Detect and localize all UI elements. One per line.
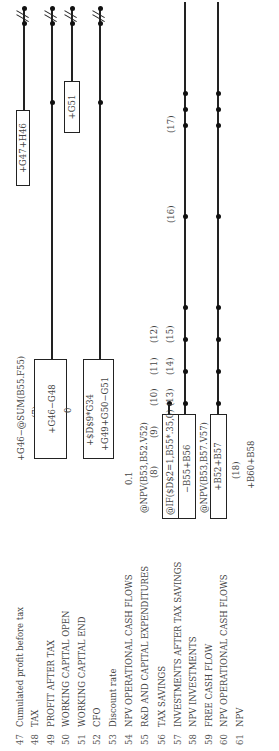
connector-line-row57 <box>184 2 186 414</box>
formula-box-cum-profit-next: +G47+H46 <box>16 110 30 186</box>
formula-npv-investments: @NPV(B53,B57.V57) <box>199 422 209 513</box>
ref-11: (11) <box>149 358 159 375</box>
row-label: PROFIT AFTER TAX <box>46 640 56 727</box>
ref-10: (10) <box>149 389 159 406</box>
row-number: 56 <box>157 734 167 745</box>
row-number: 48 <box>30 734 40 745</box>
connector-line-row49 <box>51 9 53 359</box>
ref-14: (14) <box>165 358 175 375</box>
row-label: NPV OPERATIONAL CASH FLOWS <box>124 574 134 727</box>
row-label: FREE CASH FLOW <box>204 644 214 727</box>
row-label: Cumulated profit before tax <box>15 607 25 727</box>
row-label: NPV <box>235 708 245 727</box>
row-label: TAX SAVINGS <box>157 666 167 727</box>
row-number: 51 <box>77 734 87 745</box>
formula-cum-profit-first: +G46−@SUM(B55.F55) <box>16 356 26 461</box>
formula-profit-after-tax: +G46−G48 <box>47 359 57 459</box>
row-number: 58 <box>188 734 198 745</box>
formula-inv-after-tax: −B55+B56 <box>182 445 192 493</box>
formula-discount-rate: 0.1 <box>124 471 134 485</box>
row-number: 53 <box>108 734 118 745</box>
row-label: NPV OPERATIONAL CASH FLOWS <box>219 574 229 727</box>
ref-16: (16) <box>166 206 176 223</box>
formula-tax-savings: @IF($D$2=1,B55*.35,0) <box>165 409 175 515</box>
row-number: 52 <box>92 734 102 745</box>
row-label: INVESTMENTS AFTER TAX SAVINGS <box>173 562 183 727</box>
row-number: 50 <box>61 734 71 745</box>
connector-line-row52 <box>99 9 101 359</box>
row-label: R&D AND CAPITAL EXPENDITURES <box>140 566 150 727</box>
formula-wc-open-first: 0 <box>63 408 73 413</box>
formula-cfo: +G49+G50−G51 <box>100 377 110 451</box>
row-number: 57 <box>173 734 183 745</box>
rotated-spreadsheet-diagram: 47Cumulated profit before tax48TAX49PROF… <box>0 0 279 751</box>
connector-line-row59 <box>217 2 219 414</box>
box-divider <box>178 414 179 519</box>
ref-9: (9) <box>149 426 159 438</box>
ref-8: (8) <box>149 466 159 478</box>
row-number: 54 <box>124 734 134 745</box>
formula-free-cash-flow: +B52+B57 <box>213 415 223 518</box>
row-number: 55 <box>140 734 150 745</box>
row-number: 61 <box>235 734 245 745</box>
ref-13: (13) <box>165 389 175 406</box>
formula-cum-profit-next: +G47+H46 <box>18 111 28 185</box>
row-label: NPV INVESTMENTS <box>188 637 198 727</box>
ref-12: (12) <box>149 326 159 343</box>
ref-15: (15) <box>165 326 175 343</box>
ref-17: (17) <box>166 116 176 133</box>
formula-wc-open-next: +G51 <box>67 82 77 132</box>
row-number: 47 <box>15 734 25 745</box>
ref-18: (18) <box>231 462 241 479</box>
row-number: 59 <box>204 734 214 745</box>
row-number: 60 <box>219 734 229 745</box>
formula-box-free-cash-flow: +B52+B57 <box>210 414 227 519</box>
row-label: CFO <box>92 708 102 727</box>
row-label: Discount rate <box>108 669 118 727</box>
row-label: WORKING CAPITAL END <box>77 616 87 727</box>
formula-box-wc-open-next: +G51 <box>64 81 80 133</box>
row-label: TAX <box>30 710 40 727</box>
row-label: WORKING CAPITAL OPEN <box>61 611 71 727</box>
row-number: 49 <box>46 734 56 745</box>
formula-npv-op-cf: @NPV(B53,B52.V52) <box>139 422 149 513</box>
formula-npv: +B60+B58 <box>246 441 256 489</box>
formula-wc-end: +$D$9*G34 <box>85 394 95 446</box>
